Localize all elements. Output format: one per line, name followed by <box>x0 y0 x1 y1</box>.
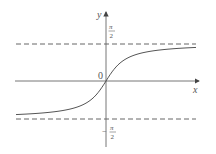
svg-text:π: π <box>109 23 113 31</box>
svg-text:π: π <box>110 124 114 132</box>
lower-tick-label: − π 2 <box>102 124 116 141</box>
upper-tick-label: π 2 <box>109 23 116 40</box>
svg-text:2: 2 <box>111 133 115 141</box>
y-axis-label: y <box>96 9 102 20</box>
arctan-graph: y x 0 π 2 − π 2 <box>0 0 216 154</box>
x-axis-label: x <box>192 84 198 95</box>
origin-label: 0 <box>98 70 103 81</box>
svg-text:−: − <box>102 127 107 136</box>
svg-text:2: 2 <box>110 32 114 40</box>
